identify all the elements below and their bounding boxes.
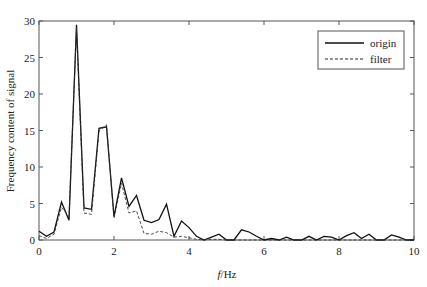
y-axis-label: Frequency content of signal	[4, 70, 16, 193]
x-tick-label: 2	[111, 245, 117, 257]
x-axis-label-unit: /Hz	[221, 268, 237, 280]
x-tick-label: 8	[336, 245, 342, 257]
y-tick-label: 20	[24, 88, 36, 100]
legend: originfilter	[318, 31, 404, 69]
y-tick-label: 30	[24, 15, 36, 27]
y-tick-label: 25	[24, 52, 36, 64]
y-tick-label: 5	[30, 198, 36, 210]
y-tick-label: 15	[24, 125, 36, 137]
x-tick-label: 0	[36, 245, 42, 257]
y-tick-label: 0	[30, 234, 36, 246]
legend-label-origin: origin	[370, 37, 397, 49]
y-tick-label: 10	[24, 161, 36, 173]
x-tick-label: 10	[409, 245, 421, 257]
legend-label-filter: filter	[370, 53, 392, 65]
x-tick-label: 4	[186, 245, 192, 257]
x-tick-label: 6	[261, 245, 267, 257]
x-axis-label: f/Hz	[218, 268, 237, 280]
frequency-chart: 0246810051015202530 originfilter Frequen…	[0, 0, 427, 287]
